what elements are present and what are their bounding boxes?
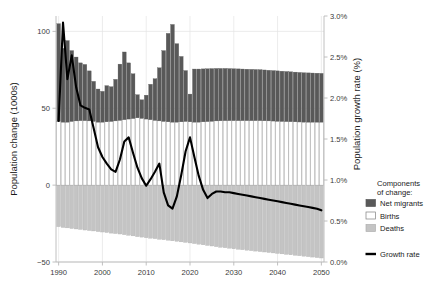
bar-deaths xyxy=(179,185,183,242)
right-tick-label: 2.5% xyxy=(330,53,348,62)
bar-births xyxy=(284,121,288,185)
left-tick-label: 50 xyxy=(42,104,50,113)
right-tick-label: 1.0% xyxy=(330,176,348,185)
bar-net-migrants xyxy=(319,73,323,122)
bar-net-migrants xyxy=(276,71,280,121)
bar-births xyxy=(263,121,267,185)
bar-deaths xyxy=(302,185,306,256)
bar-deaths xyxy=(127,185,131,235)
bar-deaths xyxy=(70,185,74,228)
bar-births xyxy=(79,121,83,186)
bar-births xyxy=(162,121,166,185)
bar-net-migrants xyxy=(214,68,218,120)
bar-deaths xyxy=(223,185,227,248)
bar-deaths xyxy=(319,185,323,258)
bar-net-migrants xyxy=(162,51,166,122)
bar-net-migrants xyxy=(175,44,179,122)
bar-net-migrants xyxy=(236,69,240,121)
bar-net-migrants xyxy=(179,56,183,121)
bar-net-migrants xyxy=(149,84,153,119)
legend-label-growth-rate: Growth rate xyxy=(380,250,420,259)
births-bars xyxy=(57,118,324,185)
bar-births xyxy=(66,122,70,185)
bar-net-migrants xyxy=(258,70,262,121)
bar-deaths xyxy=(271,185,275,253)
bar-births xyxy=(136,118,140,185)
bottom-tick-label: 2040 xyxy=(269,268,286,277)
bar-deaths xyxy=(57,185,61,227)
bar-net-migrants xyxy=(289,72,293,122)
bar-deaths xyxy=(197,185,201,244)
right-tick-label: 0.5% xyxy=(330,217,348,226)
bar-deaths xyxy=(171,185,175,241)
bar-net-migrants xyxy=(109,87,113,122)
bar-births xyxy=(302,122,306,185)
bar-net-migrants xyxy=(315,73,319,122)
bar-births xyxy=(306,122,310,185)
bar-deaths xyxy=(193,185,197,243)
bar-births xyxy=(298,122,302,185)
bar-births xyxy=(70,121,74,185)
bar-deaths xyxy=(311,185,315,257)
bar-births xyxy=(201,122,205,185)
bar-births xyxy=(276,121,280,185)
bar-net-migrants xyxy=(254,70,258,121)
bar-births xyxy=(254,121,258,186)
bar-deaths xyxy=(184,185,188,242)
bar-deaths xyxy=(122,185,126,235)
bar-births xyxy=(289,122,293,186)
bar-births xyxy=(232,121,236,186)
bar-net-migrants xyxy=(228,69,232,121)
bar-net-migrants xyxy=(127,63,131,119)
bar-deaths xyxy=(114,185,118,233)
bar-deaths xyxy=(109,185,113,233)
bar-births xyxy=(258,121,262,186)
bar-net-migrants xyxy=(210,69,214,122)
bottom-tick-label: 2020 xyxy=(182,268,199,277)
bar-net-migrants xyxy=(144,95,148,119)
bar-net-migrants xyxy=(105,86,109,122)
bar-deaths xyxy=(83,185,87,230)
bar-births xyxy=(188,122,192,185)
bar-net-migrants xyxy=(83,64,87,120)
left-tick-label: 100 xyxy=(37,27,50,36)
bar-births xyxy=(127,119,131,185)
bar-deaths xyxy=(96,185,100,231)
bar-net-migrants xyxy=(298,72,302,122)
bar-deaths xyxy=(149,185,153,238)
bar-deaths xyxy=(87,185,91,230)
bar-net-migrants xyxy=(157,68,161,121)
bar-deaths xyxy=(105,185,109,232)
bar-net-migrants xyxy=(280,71,284,121)
bar-deaths xyxy=(101,185,105,232)
bar-births xyxy=(166,122,170,185)
bar-deaths xyxy=(293,185,297,255)
bar-deaths xyxy=(284,185,288,254)
bar-births xyxy=(122,120,126,186)
bar-deaths xyxy=(258,185,262,251)
bar-births xyxy=(61,122,65,185)
bar-net-migrants xyxy=(114,79,118,121)
bar-deaths xyxy=(315,185,319,257)
bar-net-migrants xyxy=(92,81,96,121)
bar-net-migrants xyxy=(101,91,105,122)
right-tick-label: 2.0% xyxy=(330,94,348,103)
legend-swatch-deaths xyxy=(366,225,376,232)
bar-deaths xyxy=(166,185,170,240)
bar-deaths xyxy=(276,185,280,253)
bar-births xyxy=(241,121,245,186)
bar-deaths xyxy=(228,185,232,248)
bar-deaths xyxy=(249,185,253,251)
bar-net-migrants xyxy=(306,73,310,122)
bar-births xyxy=(280,121,284,185)
bar-net-migrants xyxy=(311,73,315,122)
bar-births xyxy=(293,122,297,185)
bar-births xyxy=(206,121,210,185)
bar-deaths xyxy=(153,185,157,239)
bar-net-migrants xyxy=(96,89,100,122)
bar-deaths xyxy=(61,185,65,227)
bar-births xyxy=(105,122,109,185)
bar-deaths xyxy=(66,185,70,228)
bar-deaths xyxy=(267,185,271,252)
bar-deaths xyxy=(214,185,218,247)
